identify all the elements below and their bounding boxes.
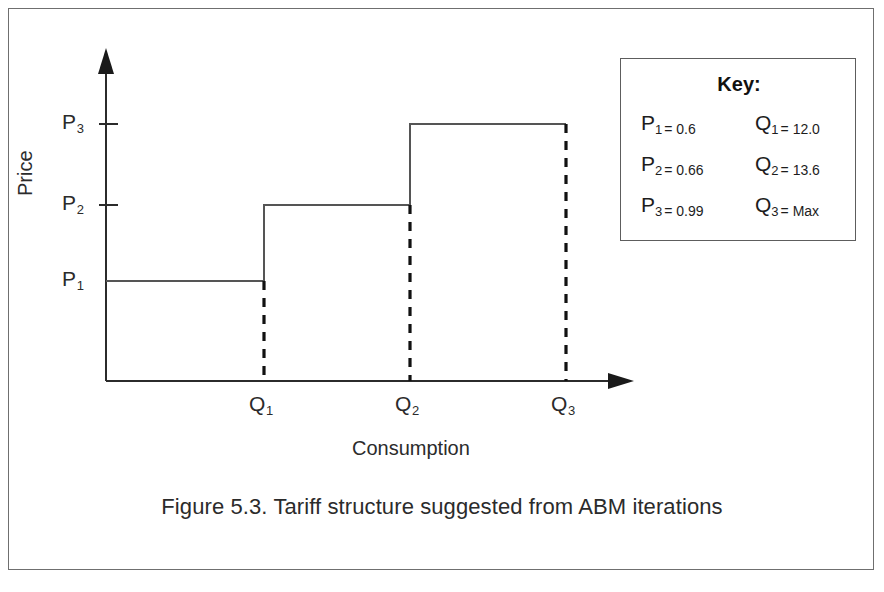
- key-p1-value: = 0.6: [664, 121, 696, 137]
- key-grid: P1= 0.6 Q1= 12.0 P2= 0.66 Q2= 13.6 P3= 0…: [621, 111, 857, 234]
- x-tick-label-q2: Q2: [395, 392, 419, 416]
- key-q3-value: = Max: [781, 203, 820, 219]
- key-q2-subscript: 2: [771, 163, 778, 178]
- key-q2-symbol: Q: [755, 152, 771, 175]
- key-p1-symbol: P: [641, 111, 655, 134]
- key-cell-q3: Q3= Max: [739, 193, 857, 217]
- key-title: Key:: [621, 73, 857, 96]
- key-q1-value: = 12.0: [781, 121, 820, 137]
- y-tick-label-p3: P3: [62, 110, 84, 134]
- key-q1-symbol: Q: [755, 111, 771, 134]
- key-q2-value: = 13.6: [781, 162, 820, 178]
- key-row: P1= 0.6 Q1= 12.0: [621, 111, 857, 152]
- tariff-step-line: [106, 124, 566, 281]
- key-cell-p2: P2= 0.66: [621, 152, 739, 176]
- x-tick-label-q1: Q1: [249, 392, 273, 416]
- figure-page: P3 P2 P1 Q1 Q2 Q3 Price Consumption Key:…: [0, 0, 884, 592]
- key-q3-subscript: 3: [771, 204, 778, 219]
- key-p3-symbol: P: [641, 193, 655, 216]
- key-q1-subscript: 1: [771, 122, 778, 137]
- key-cell-q2: Q2= 13.6: [739, 152, 857, 176]
- key-cell-q1: Q1= 12.0: [739, 111, 857, 135]
- key-p3-value: = 0.99: [664, 203, 703, 219]
- key-p2-subscript: 2: [655, 163, 662, 178]
- x-axis-arrow-icon: [608, 373, 634, 389]
- key-legend-box: Key: P1= 0.6 Q1= 12.0 P2= 0.66 Q2= 13.6 …: [620, 58, 856, 241]
- x-tick-label-q3: Q3: [551, 392, 575, 416]
- figure-caption: Figure 5.3. Tariff structure suggested f…: [0, 494, 884, 520]
- y-tick-label-p2: P2: [62, 191, 84, 215]
- key-p1-subscript: 1: [655, 122, 662, 137]
- key-row: P2= 0.66 Q2= 13.6: [621, 152, 857, 193]
- x-axis-title: Consumption: [352, 437, 470, 460]
- y-axis-arrow-icon: [98, 48, 114, 74]
- key-cell-p1: P1= 0.6: [621, 111, 739, 135]
- key-row: P3= 0.99 Q3= Max: [621, 193, 857, 234]
- key-p3-subscript: 3: [655, 204, 662, 219]
- key-p2-value: = 0.66: [664, 162, 703, 178]
- y-tick-label-p1: P1: [62, 267, 84, 291]
- key-p2-symbol: P: [641, 152, 655, 175]
- y-axis-title: Price: [14, 150, 37, 196]
- key-q3-symbol: Q: [755, 193, 771, 216]
- key-cell-p3: P3= 0.99: [621, 193, 739, 217]
